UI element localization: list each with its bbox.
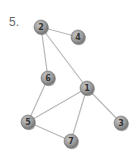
node-label: 7 [68,137,74,146]
node-label: 5 [25,118,31,127]
node-2: 2 [34,20,49,35]
node-4: 4 [71,30,86,45]
node-6: 6 [41,71,56,86]
node-label: 2 [38,23,44,32]
node-label: 4 [75,33,81,42]
graph-edges [28,27,121,141]
graph-diagram: 1234567 [0,0,134,158]
node-5: 5 [21,115,36,130]
node-label: 6 [45,74,51,83]
node-7: 7 [64,134,79,149]
node-label: 1 [84,84,90,93]
node-label: 3 [118,119,124,128]
node-1: 1 [80,81,95,96]
node-3: 3 [114,116,129,131]
